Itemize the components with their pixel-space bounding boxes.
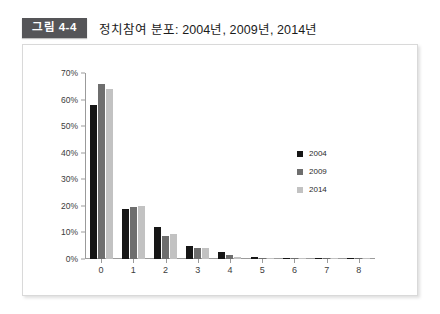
bar-2014-3 [202,248,209,259]
legend-item-2004: 2004 [297,149,327,158]
bar-2004-2 [154,227,161,259]
bar-2009-0 [98,84,105,259]
legend-swatch-2009 [297,169,303,175]
chart-legend: 200420092014 [297,149,327,194]
bar-2014-1 [138,206,145,259]
legend-item-2014: 2014 [297,185,327,194]
bar-2004-6 [283,258,290,259]
legend-label-2004: 2004 [309,149,327,158]
bar-group [85,73,117,259]
bar-2014-2 [170,234,177,259]
plot-area: 0%10%20%30%40%50%60%70%012345678 [85,73,375,259]
bar-2004-0 [90,105,97,259]
x-axis-tick-label: 0 [99,265,104,275]
figure-title: 정치참여 분포: 2004년, 2009년, 2014년 [99,19,318,38]
bar-2014-5 [267,258,274,259]
x-axis-tick-label: 6 [292,265,297,275]
bar-group [246,73,278,259]
x-axis-tick-label: 7 [324,265,329,275]
chart-frame: 0%10%20%30%40%50%60%70%012345678 2004200… [22,44,418,296]
legend-swatch-2004 [297,151,303,157]
bar-group [343,73,375,259]
bar-group [117,73,149,259]
bar-2004-5 [251,257,258,259]
bar-2004-4 [218,252,225,259]
x-axis-tick-label: 3 [195,265,200,275]
figure-header: 그림 4-4 정치참여 분포: 2004년, 2009년, 2014년 [22,14,418,42]
x-axis-tick-label: 1 [131,265,136,275]
legend-swatch-2014 [297,187,303,193]
bar-2009-3 [194,248,201,259]
bar-2004-7 [315,258,322,259]
bar-2014-6 [299,258,306,259]
bar-2004-3 [186,246,193,259]
x-axis-tick-label: 5 [260,265,265,275]
bar-2014-0 [106,89,113,259]
bar-group [182,73,214,259]
plot-wrapper: 0%10%20%30%40%50%60%70%012345678 2004200… [23,45,419,297]
figure-card: 그림 4-4 정치참여 분포: 2004년, 2009년, 2014년 0%10… [0,0,440,314]
x-axis-tick-mark [230,259,231,263]
bar-2009-1 [130,207,137,259]
legend-label-2014: 2014 [309,185,327,194]
x-axis-tick-label: 4 [227,265,232,275]
bar-2004-1 [122,209,129,259]
x-axis-tick-mark [198,259,199,263]
bar-2014-7 [331,258,338,259]
bar-group [149,73,181,259]
bar-2014-4 [234,257,241,259]
bar-2004-8 [347,258,354,259]
x-axis-tick-mark [101,259,102,263]
x-axis-tick-label: 2 [163,265,168,275]
legend-label-2009: 2009 [309,167,327,176]
x-axis-tick-mark [166,259,167,263]
bar-2009-2 [162,236,169,259]
x-axis-tick-mark [327,259,328,263]
bar-2014-8 [363,258,370,259]
x-axis-tick-mark [294,259,295,263]
x-axis-tick-mark [359,259,360,263]
legend-item-2009: 2009 [297,167,327,176]
figure-number-badge: 그림 4-4 [22,18,87,39]
x-axis-tick-mark [262,259,263,263]
bar-group [214,73,246,259]
x-axis-tick-mark [133,259,134,263]
x-axis-tick-label: 8 [356,265,361,275]
